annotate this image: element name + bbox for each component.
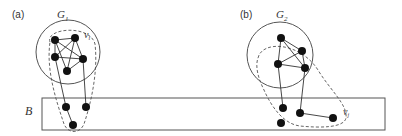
panel-b-label: (b)	[240, 9, 252, 20]
node	[71, 34, 79, 42]
diagram-canvas: B (a) G1	[0, 0, 402, 136]
node	[63, 67, 71, 75]
node	[62, 103, 70, 111]
node	[277, 119, 285, 127]
graph-g2-nodes	[274, 34, 337, 127]
node	[329, 114, 337, 122]
node	[51, 53, 59, 61]
node	[279, 104, 287, 112]
node	[298, 47, 306, 55]
node	[51, 36, 59, 44]
node	[301, 64, 309, 72]
vertex-vi-label: vi	[84, 29, 90, 41]
panel-a-label: (a)	[12, 9, 24, 20]
node	[296, 109, 304, 117]
node	[79, 55, 87, 63]
vertex-vj-label: vj	[343, 106, 349, 118]
node	[69, 121, 77, 129]
node	[274, 60, 282, 68]
node	[277, 34, 285, 42]
node	[82, 103, 90, 111]
region-b-rectangle	[42, 98, 385, 130]
region-b-label: B	[25, 104, 33, 118]
graph-g2-label: G2	[276, 8, 288, 23]
dashed-enclosure-vi	[49, 30, 96, 131]
panel-b: (b) G2 vj	[240, 8, 349, 127]
